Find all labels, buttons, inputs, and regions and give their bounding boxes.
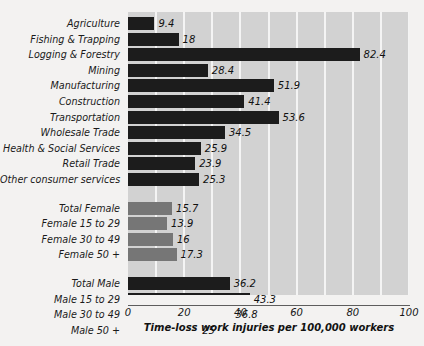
category-label: Total Female: [0, 202, 124, 215]
bar-row: [128, 233, 409, 246]
bar-value-label: 28.4: [212, 64, 234, 77]
x-axis-title: Time-loss work injuries per 100,000 work…: [128, 322, 410, 333]
bar-value-label: 51.9: [278, 79, 300, 92]
category-label: Health & Social Services: [0, 142, 124, 155]
category-label: Wholesale Trade: [0, 126, 124, 139]
x-axis-line: [128, 305, 410, 306]
bar-row: [128, 79, 409, 92]
bar: [128, 202, 172, 215]
bar-value-label: 82.4: [364, 48, 386, 61]
bar: [128, 293, 250, 295]
bar-value-label: 43.3: [254, 293, 276, 306]
bar-value-label: 36.2: [234, 277, 256, 290]
bar-value-label: 9.4: [158, 17, 174, 30]
bar: [128, 217, 167, 230]
category-label: Male 15 to 29: [0, 293, 124, 306]
bar: [128, 248, 177, 261]
bar-row: [128, 248, 409, 261]
bar-row: [128, 277, 409, 290]
bar-row: [128, 111, 409, 124]
bar: [128, 17, 154, 30]
x-tick-label: 40: [234, 307, 247, 318]
x-axis-ticks: 020406080100: [128, 307, 410, 321]
bar-row: [128, 64, 409, 77]
x-tick-label: 100: [399, 307, 418, 318]
bar-value-label: 13.9: [171, 217, 193, 230]
category-label: Transportation: [0, 111, 124, 124]
category-label: Manufacturing: [0, 79, 124, 92]
x-tick-label: 0: [125, 307, 131, 318]
bar-row: [128, 157, 409, 170]
category-label: Female 30 to 49: [0, 233, 124, 246]
bar-row: [128, 142, 409, 155]
category-label: Male 30 to 49: [0, 308, 124, 321]
category-label: Female 15 to 29: [0, 217, 124, 230]
category-label: Male 50 +: [0, 324, 124, 337]
bar: [128, 142, 201, 155]
bar: [128, 233, 173, 246]
bar: [128, 95, 244, 108]
bar-row: [128, 202, 409, 215]
bar: [128, 173, 199, 186]
bar: [128, 79, 274, 92]
category-label: Logging & Forestry: [0, 48, 124, 61]
category-label: Fishing & Trapping: [0, 33, 124, 46]
category-label: Total Male: [0, 277, 124, 290]
category-label: Construction: [0, 95, 124, 108]
bar-value-label: 16: [177, 233, 190, 246]
bar: [128, 111, 279, 124]
bar-row: [128, 126, 409, 139]
bar-row: [128, 33, 409, 46]
bar: [128, 48, 360, 61]
bar: [128, 126, 225, 139]
bar-row: [128, 173, 409, 186]
bar: [128, 157, 195, 170]
bar: [128, 64, 208, 77]
bar-value-label: 23.9: [199, 157, 221, 170]
bar-chart: AgricultureFishing & TrappingLogging & F…: [0, 0, 424, 346]
category-label-column: AgricultureFishing & TrappingLogging & F…: [0, 12, 124, 295]
x-tick-label: 60: [290, 307, 303, 318]
bar-value-label: 41.4: [248, 95, 270, 108]
bar-value-label: 18: [183, 33, 196, 46]
category-label: Agriculture: [0, 17, 124, 30]
x-tick-label: 80: [346, 307, 359, 318]
bar-value-label: 25.3: [203, 173, 225, 186]
category-label: Retail Trade: [0, 157, 124, 170]
bar: [128, 33, 179, 46]
category-label: Other consumer services: [0, 173, 124, 186]
category-label: Mining: [0, 64, 124, 77]
bar-value-label: 34.5: [229, 126, 251, 139]
bar-value-label: 17.3: [181, 248, 203, 261]
bar-value-label: 15.7: [176, 202, 198, 215]
category-label: Female 50 +: [0, 248, 124, 261]
bar: [128, 277, 230, 290]
bar-value-label: 25.9: [205, 142, 227, 155]
x-tick-label: 20: [178, 307, 191, 318]
bar-value-label: 53.6: [283, 111, 305, 124]
